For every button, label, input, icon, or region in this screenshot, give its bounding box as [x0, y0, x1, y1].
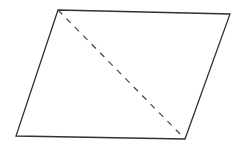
parallelogram-diagram [0, 0, 231, 153]
dashed-diagonal [58, 10, 185, 139]
parallelogram-outline [16, 10, 230, 139]
